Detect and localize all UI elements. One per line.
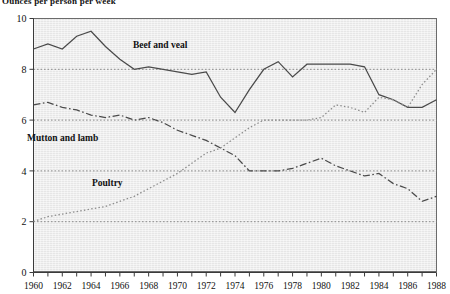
chart-canvas: 0246810196019621964196619681970197219741… [0, 0, 450, 294]
x-tick-label-1988: 1988 [427, 281, 446, 291]
series-label-mutton-and-lamb: Mutton and lamb [27, 133, 98, 143]
x-tick-label-1966: 1966 [110, 281, 129, 291]
x-tick-label-1962: 1962 [53, 281, 72, 291]
x-tick-label-1960: 1960 [24, 281, 43, 291]
chart-figure: Ounces per person per week 0246810196019… [0, 0, 450, 294]
x-tick-label-1964: 1964 [82, 281, 101, 291]
y-tick-label-4: 4 [22, 166, 27, 177]
y-tick-label-2: 2 [22, 216, 27, 227]
y-tick-label-6: 6 [22, 115, 27, 126]
x-tick-label-1986: 1986 [398, 281, 417, 291]
x-tick-label-1970: 1970 [168, 281, 187, 291]
x-tick-label-1976: 1976 [254, 281, 273, 291]
x-tick-label-1982: 1982 [341, 281, 360, 291]
x-tick-label-1968: 1968 [139, 281, 158, 291]
y-tick-label-8: 8 [22, 64, 27, 75]
x-tick-label-1978: 1978 [283, 281, 302, 291]
series-line-poultry [34, 69, 437, 221]
x-tick-label-1974: 1974 [226, 281, 245, 291]
x-tick-label-1972: 1972 [197, 281, 216, 291]
series-label-beef-and-veal: Beef and veal [133, 40, 188, 50]
x-tick-label-1980: 1980 [312, 281, 331, 291]
y-tick-label-0: 0 [22, 267, 27, 278]
series-label-poultry: Poultry [92, 178, 123, 188]
y-tick-label-10: 10 [17, 13, 27, 24]
x-tick-label-1984: 1984 [369, 281, 388, 291]
